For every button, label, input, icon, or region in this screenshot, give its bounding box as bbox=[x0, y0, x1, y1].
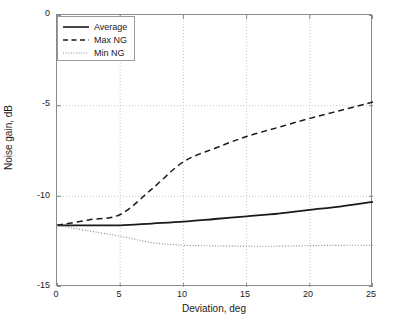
x-tick-label-0: 0 bbox=[41, 289, 71, 299]
legend-label-average: Average bbox=[91, 21, 127, 33]
series-line-min-ng bbox=[57, 225, 373, 246]
legend-label-max-ng: Max NG bbox=[91, 34, 127, 46]
x-tick-label-20: 20 bbox=[293, 289, 323, 299]
y-tick-label-minus5: -5 bbox=[30, 98, 50, 108]
x-axis-title: Deviation, deg bbox=[56, 303, 372, 314]
legend-entry-average: Average bbox=[61, 20, 131, 33]
x-tick-label-10: 10 bbox=[167, 289, 197, 299]
series-line-average bbox=[57, 202, 373, 226]
legend-line-dotted-icon bbox=[61, 47, 91, 59]
y-axis-title: Noise gain, dB bbox=[3, 68, 14, 208]
x-tick-label-5: 5 bbox=[104, 289, 134, 299]
chart-figure: Noise gain, dB 0 -5 -10 -15 0 5 10 15 20… bbox=[0, 0, 395, 327]
x-tick-label-25: 25 bbox=[356, 289, 386, 299]
x-tick-label-15: 15 bbox=[230, 289, 260, 299]
legend-line-solid-icon bbox=[61, 21, 91, 33]
data-series-group bbox=[57, 102, 373, 246]
legend-line-dashed-icon bbox=[61, 34, 91, 46]
series-line-max-ng bbox=[57, 102, 373, 225]
y-tick-label-0: 0 bbox=[30, 8, 50, 18]
legend: Average Max NG Min NG bbox=[57, 16, 135, 61]
legend-entry-min-ng: Min NG bbox=[61, 46, 131, 59]
y-tick-label-minus10: -10 bbox=[26, 190, 50, 200]
legend-label-min-ng: Min NG bbox=[91, 47, 125, 59]
legend-entry-max-ng: Max NG bbox=[61, 33, 131, 46]
